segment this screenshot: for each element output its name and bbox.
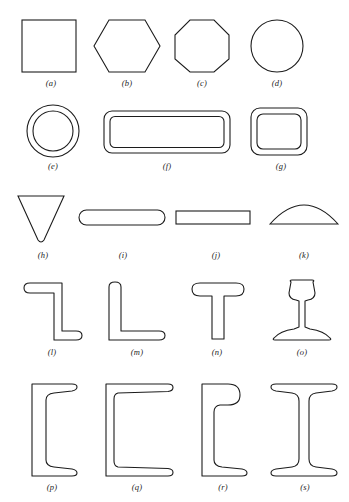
figure-caption: (g) — [238, 161, 324, 171]
shape-row-1: (a) (b) (c) (d) — [0, 14, 349, 88]
z-section-shape — [8, 277, 96, 345]
figure-item-channel-section-wide: (q) — [88, 380, 186, 492]
annulus-shape — [10, 103, 96, 159]
rounded-rectangle-tube-shape — [96, 103, 238, 159]
figure-item-round-edge-flat-bar: (i) — [73, 188, 173, 260]
figure-caption: (r) — [180, 482, 266, 492]
circle-shape — [234, 14, 320, 76]
t-section-shape — [176, 277, 258, 345]
hexagon-shape — [84, 14, 170, 76]
figure-caption: (e) — [10, 161, 96, 171]
channel-shape-box — [8, 380, 96, 480]
figure-caption: (f) — [96, 161, 238, 171]
annulus-shape-box — [10, 103, 96, 159]
figure-item-octagonal-bar: (c) — [159, 14, 245, 88]
rail-shape-box — [258, 277, 346, 345]
figure-caption: (b) — [84, 78, 170, 88]
octagon-shape — [159, 14, 245, 76]
figure-item-zee-section: (l) — [8, 277, 96, 357]
hexagon-shape-box — [84, 14, 170, 76]
figure-caption: (l) — [8, 347, 96, 357]
rounded-square-tube-shape-box — [238, 103, 324, 159]
rounded-square-tube-shape — [238, 103, 324, 159]
shape-row-5: (p) (q) (r) (s) — [0, 380, 349, 490]
figure-item-half-round-bar: (k) — [260, 188, 348, 260]
half-round-shape-box — [260, 188, 348, 248]
figure-caption: (q) — [88, 482, 186, 492]
rectangle-shape — [168, 188, 264, 248]
figure-item-angle-section: (m) — [93, 277, 181, 357]
wide-channel-shape-box — [88, 380, 186, 480]
figure-item-round-bar: (d) — [234, 14, 320, 88]
z-section-shape-box — [8, 277, 96, 345]
figure-item-flat-bar: (j) — [168, 188, 264, 260]
stadium-shape — [73, 188, 173, 248]
bulb-angle-shape-box — [180, 380, 266, 480]
figure-item-bulb-angle-section: (r) — [180, 380, 266, 492]
figure-item-round-tube: (e) — [10, 103, 96, 171]
octagon-shape-box — [159, 14, 245, 76]
shape-row-4: (l) (m) (n) (o) — [0, 277, 349, 357]
figure-caption: (k) — [260, 250, 348, 260]
i-beam-shape-box — [262, 380, 348, 480]
square-shape-box — [8, 14, 94, 76]
rectangle-shape-box — [168, 188, 264, 248]
figure-caption: (i) — [73, 250, 173, 260]
figure-item-hexagonal-bar: (b) — [84, 14, 170, 88]
l-angle-shape — [93, 277, 181, 345]
figure-item-channel-section-tapered-flange: (p) — [8, 380, 96, 492]
figure-item-square-tube: (g) — [238, 103, 324, 171]
t-section-shape-box — [176, 277, 258, 345]
square-shape — [8, 14, 94, 76]
figure-caption: (o) — [258, 347, 346, 357]
figure-caption: (c) — [159, 78, 245, 88]
i-beam-shape — [262, 380, 348, 480]
rail-shape — [258, 277, 346, 345]
figure-item-tee-section: (n) — [176, 277, 258, 357]
figure-item-rail-section: (o) — [258, 277, 346, 357]
half-round-shape — [260, 188, 348, 248]
figure-caption: (n) — [176, 347, 258, 357]
figure-item-square-bar: (a) — [8, 14, 94, 88]
rounded-rectangle-tube-shape-box — [96, 103, 238, 159]
wide-channel-shape — [88, 380, 186, 480]
figure-caption: (j) — [168, 250, 264, 260]
figure-item-rectangular-tube: (f) — [96, 103, 238, 171]
shape-row-3: (h) (i) (j) (k) — [0, 188, 349, 258]
figure-plate: (a) (b) (c) (d) — [0, 0, 349, 502]
shape-row-2: (e) (f) (g) — [0, 103, 349, 169]
channel-shape — [8, 380, 96, 480]
figure-item-i-beam-section: (s) — [262, 380, 348, 492]
figure-caption: (p) — [8, 482, 96, 492]
l-angle-shape-box — [93, 277, 181, 345]
stadium-shape-box — [73, 188, 173, 248]
figure-caption: (s) — [262, 482, 348, 492]
bulb-angle-shape — [180, 380, 266, 480]
figure-caption: (a) — [8, 78, 94, 88]
figure-caption: (m) — [93, 347, 181, 357]
circle-shape-box — [234, 14, 320, 76]
figure-caption: (d) — [234, 78, 320, 88]
